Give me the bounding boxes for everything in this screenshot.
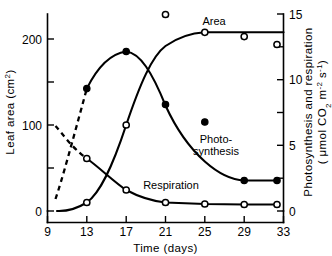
photosynthesis-point-25 xyxy=(202,119,208,125)
xtick-label-25: 25 xyxy=(198,225,212,239)
series-label-photosynthesis-line2: synthesis xyxy=(193,145,239,157)
xtick-label-13: 13 xyxy=(80,225,94,239)
series-label-area: Area xyxy=(202,15,226,27)
y-axis-left-title: Leaf area (cm2) xyxy=(3,69,17,154)
area-point-25 xyxy=(202,29,208,35)
respiration-point-33 xyxy=(274,201,280,207)
respiration-point-13 xyxy=(84,155,90,161)
xtick-label-9: 9 xyxy=(44,225,51,239)
ytick-label-right-10: 10 xyxy=(289,73,303,87)
respiration-point-25 xyxy=(202,201,208,207)
photosynthesis-point-17 xyxy=(123,48,129,54)
svg-text:Leaf area (cm2): Leaf area (cm2) xyxy=(3,69,17,154)
ytick-label-right-0: 0 xyxy=(289,205,296,219)
photosynthesis-point-13 xyxy=(84,85,90,91)
area-point-29 xyxy=(241,34,247,40)
y-left-title-main: Leaf area xyxy=(4,102,16,154)
xtick-label-33: 33 xyxy=(277,225,291,239)
area-point-17 xyxy=(123,122,129,128)
photosynthesis-point-21 xyxy=(162,101,168,107)
y-right-units-exp1: -2 xyxy=(315,81,324,89)
respiration-point-29 xyxy=(241,201,247,207)
chart-figure: 0 100 200 0 5 10 15 9 xyxy=(0,0,332,256)
ytick-label-left-100: 100 xyxy=(22,119,42,133)
y-left-title-unit-open: (cm xyxy=(4,78,16,98)
x-axis-title: Time (days) xyxy=(133,242,198,254)
line-chart: 0 100 200 0 5 10 15 9 xyxy=(0,0,332,256)
series-label-respiration: Respiration xyxy=(143,179,199,191)
xtick-label-29: 29 xyxy=(238,225,252,239)
y-right-units-exp2: -1 xyxy=(315,64,324,72)
photosynthesis-point-33 xyxy=(274,177,280,183)
xtick-label-17: 17 xyxy=(120,225,134,239)
y-right-units-b: m xyxy=(316,90,328,104)
ytick-label-right-5: 5 xyxy=(289,139,296,153)
respiration-point-21 xyxy=(162,199,168,205)
ytick-label-right-15: 15 xyxy=(289,8,303,22)
photosynthesis-point-29 xyxy=(241,177,247,183)
ytick-label-left-0: 0 xyxy=(35,205,42,219)
area-point-21 xyxy=(162,11,168,17)
y-axis-right-title-line1: Photosynthesis and respiration xyxy=(302,27,314,196)
respiration-point-17 xyxy=(123,187,129,193)
y-right-units-a: mol CO xyxy=(316,108,328,149)
xtick-label-21: 21 xyxy=(159,225,173,239)
area-point-13 xyxy=(84,199,90,205)
y-right-units-mu: μ xyxy=(316,149,328,156)
y-left-title-unit-close: ) xyxy=(4,69,16,73)
series-label-photosynthesis-line1: Photo- xyxy=(200,133,233,145)
y-right-title-main: Photosynthesis and respiration xyxy=(302,27,314,196)
ytick-label-left-200: 200 xyxy=(22,33,42,47)
y-right-units-c: s xyxy=(316,72,328,82)
area-point-33 xyxy=(274,41,280,47)
y-right-units-close: ) xyxy=(316,60,328,64)
